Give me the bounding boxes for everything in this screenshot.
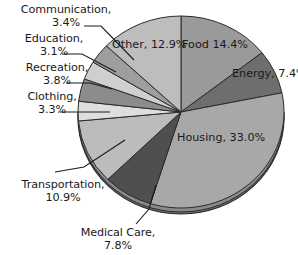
label-housing-name: Housing, — [177, 131, 226, 144]
label-transportation-name: Transportation, — [22, 178, 105, 191]
label-communication-name: Communication, — [21, 3, 111, 16]
label-clothing-pct: 3.3% — [2, 103, 102, 116]
label-housing: Housing, 33.0% — [177, 131, 247, 145]
label-recreation-name: Recreation, — [26, 61, 88, 74]
label-medical-care: Medical Care, 7.8% — [62, 226, 174, 253]
label-housing-pct: 33.0% — [230, 131, 266, 144]
pie-chart: Communication, 3.4% Education, 3.1% Recr… — [0, 0, 298, 255]
label-education: Education, 3.1% — [2, 32, 106, 59]
label-food-pct: 14.4% — [212, 38, 248, 51]
label-other: Other, 12.9% — [112, 38, 170, 52]
label-recreation: Recreation, 3.8% — [2, 61, 112, 88]
label-energy-pct: 7.4% — [278, 67, 298, 80]
label-transportation: Transportation, 10.9% — [1, 178, 125, 205]
label-clothing: Clothing, 3.3% — [2, 90, 102, 117]
label-medical-care-pct: 7.8% — [62, 239, 174, 252]
label-education-name: Education, — [25, 32, 83, 45]
label-communication-pct: 3.4% — [2, 16, 130, 29]
label-food-name: Food — [182, 38, 209, 51]
label-energy: Energy, 7.4% — [232, 67, 290, 81]
label-recreation-pct: 3.8% — [2, 74, 112, 87]
label-medical-care-name: Medical Care, — [81, 226, 156, 239]
label-communication: Communication, 3.4% — [2, 3, 130, 30]
label-food: Food 14.4% — [182, 38, 238, 52]
label-education-pct: 3.1% — [2, 45, 106, 58]
label-energy-name: Energy, — [232, 67, 275, 80]
label-other-name: Other, — [112, 38, 147, 51]
label-transportation-pct: 10.9% — [1, 191, 125, 204]
label-clothing-name: Clothing, — [27, 90, 76, 103]
